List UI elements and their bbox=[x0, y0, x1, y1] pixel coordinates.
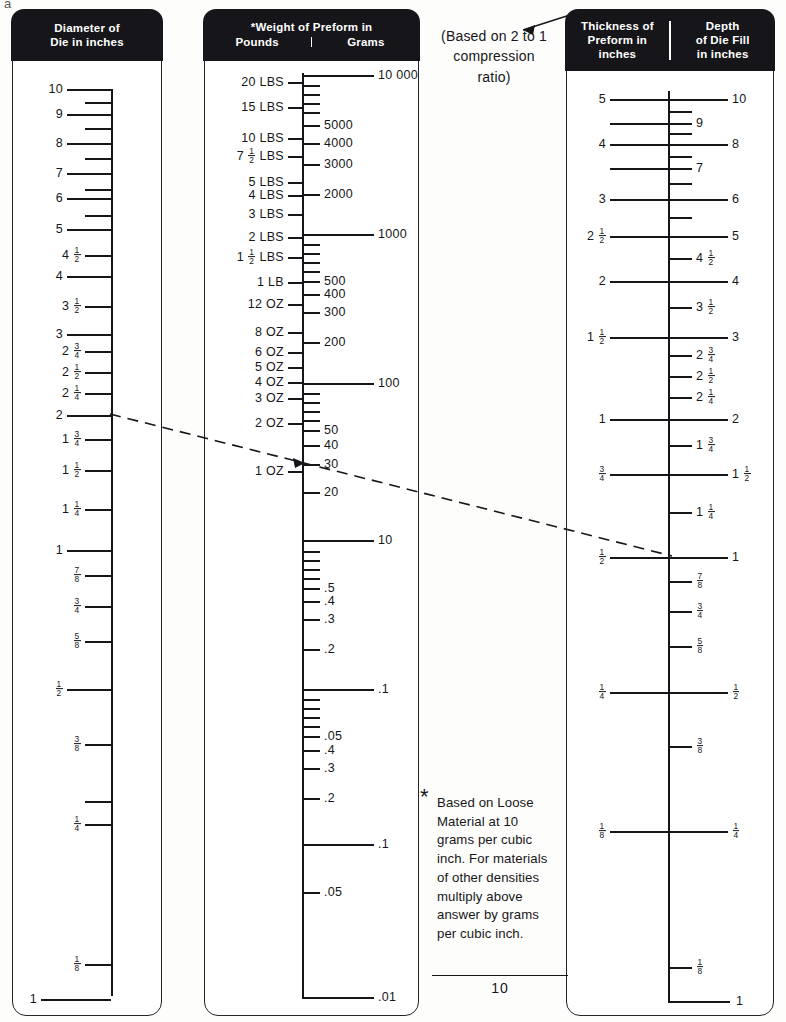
scale-tick bbox=[670, 307, 692, 309]
scale-tick bbox=[304, 649, 320, 651]
scale-label: .05 bbox=[324, 730, 342, 743]
scale-label: 78 bbox=[696, 572, 704, 590]
scale-tick bbox=[670, 831, 728, 833]
scale-tick bbox=[610, 692, 668, 694]
scale-tick bbox=[85, 964, 111, 966]
scale-label: 10 LBS bbox=[241, 132, 284, 145]
scale-label: 9 bbox=[56, 108, 63, 121]
scale-tick bbox=[67, 143, 111, 145]
scale-tick bbox=[304, 420, 320, 422]
scale-tick bbox=[85, 470, 111, 472]
scale-tick bbox=[670, 156, 692, 158]
panel-weight: *Weight of Preform in Pounds Grams 20 LB… bbox=[204, 10, 419, 1016]
scale-label: .01 bbox=[378, 991, 396, 1004]
scale-tick bbox=[85, 215, 111, 217]
scale-tick bbox=[288, 182, 302, 184]
scale-label: 4 LBS bbox=[248, 189, 284, 202]
scale-label: 58 bbox=[696, 637, 704, 655]
scale-tick bbox=[670, 611, 692, 613]
scale-tick bbox=[304, 402, 320, 404]
scale-label: 10 bbox=[732, 93, 747, 106]
scale-tick bbox=[85, 158, 111, 160]
scale-label: 3 LBS bbox=[248, 208, 284, 221]
scale-tick bbox=[304, 94, 320, 96]
scale-tick bbox=[304, 551, 320, 553]
scale-label: 5000 bbox=[324, 119, 353, 132]
scale-tick bbox=[304, 699, 320, 701]
scale-label: 40 bbox=[324, 439, 339, 452]
scale-tick bbox=[610, 123, 668, 125]
scale-tick bbox=[67, 198, 111, 200]
scale-tick bbox=[304, 464, 320, 466]
scale-tick bbox=[670, 236, 728, 238]
scale-label: 2 12 bbox=[62, 363, 81, 381]
scale-tick bbox=[670, 111, 692, 113]
scale-label: 1 34 bbox=[696, 436, 715, 454]
scale-label: 3000 bbox=[324, 158, 353, 171]
scale-label: 14 bbox=[598, 683, 606, 701]
scale-tick bbox=[670, 646, 692, 648]
scale-label: .3 bbox=[324, 613, 335, 626]
scale-label: 34 bbox=[73, 597, 81, 615]
scale-tick bbox=[670, 397, 692, 399]
scale-label: 3 bbox=[599, 193, 606, 206]
scale-tick bbox=[288, 195, 302, 197]
scale-tick bbox=[67, 550, 111, 552]
scale-tick bbox=[288, 352, 302, 354]
scale-label: 4000 bbox=[324, 137, 353, 150]
scale-label: 500 bbox=[324, 275, 346, 288]
scale-axis-line bbox=[668, 91, 670, 1001]
scale-tick bbox=[304, 798, 320, 800]
scale-label: 1 14 bbox=[62, 500, 81, 518]
scale-tick bbox=[304, 271, 320, 273]
scale-label: 9 bbox=[696, 117, 703, 130]
scale-label: 34 bbox=[696, 602, 704, 620]
scale-tick bbox=[67, 229, 111, 231]
scale-label: 2 OZ bbox=[255, 417, 284, 430]
scale-label: 4 bbox=[599, 138, 606, 151]
scale-tick bbox=[304, 281, 320, 283]
scale-label: 10 bbox=[48, 83, 63, 96]
scale-label: 5 bbox=[599, 93, 606, 106]
scale-foot-line bbox=[668, 1001, 730, 1003]
scale-tick bbox=[304, 253, 320, 255]
scale-label: 3 12 bbox=[696, 298, 715, 316]
scale-tick bbox=[304, 569, 320, 571]
scale-tick bbox=[304, 125, 320, 127]
scale-tick bbox=[304, 892, 320, 894]
scale-tick bbox=[304, 430, 320, 432]
scale-tick bbox=[288, 107, 302, 109]
scale-tick bbox=[304, 997, 374, 999]
scale-tick bbox=[304, 601, 320, 603]
scale-label: 5 bbox=[56, 223, 63, 236]
scale-tick bbox=[670, 692, 728, 694]
scale-label: .1 bbox=[378, 683, 389, 696]
scale-tick bbox=[304, 750, 320, 752]
scale-tick bbox=[304, 844, 374, 846]
scale-tick bbox=[670, 217, 692, 219]
scale-tick bbox=[304, 294, 320, 296]
scale-label: 12 bbox=[598, 548, 606, 566]
scale-tick bbox=[610, 281, 668, 283]
scale-label: 2 14 bbox=[696, 388, 715, 406]
scale-tick bbox=[610, 144, 668, 146]
scale-label: .2 bbox=[324, 643, 335, 656]
scale-label: 14 bbox=[732, 822, 740, 840]
scale-label: 1 LB bbox=[257, 276, 284, 289]
scale-label: 3 bbox=[732, 331, 739, 344]
footnote-line-4: inch. For materials bbox=[437, 850, 569, 869]
scale-label: 20 LBS bbox=[241, 76, 284, 89]
scale-tick bbox=[670, 376, 692, 378]
scale-tick bbox=[304, 708, 320, 710]
scale-label: 6 bbox=[732, 193, 739, 206]
scale-label: 2 bbox=[599, 275, 606, 288]
scale-label: 18 bbox=[73, 955, 81, 973]
scale-label: 4 12 bbox=[62, 246, 81, 264]
scale-tick bbox=[288, 398, 302, 400]
scale-tick bbox=[304, 689, 374, 691]
compression-ratio-note: (Based on 2 to 1 compression ratio) bbox=[424, 26, 564, 87]
scale-tick bbox=[304, 112, 320, 114]
scale-label: 2 12 bbox=[696, 367, 715, 385]
scale-tick bbox=[670, 474, 728, 476]
scale-tick bbox=[85, 306, 111, 308]
